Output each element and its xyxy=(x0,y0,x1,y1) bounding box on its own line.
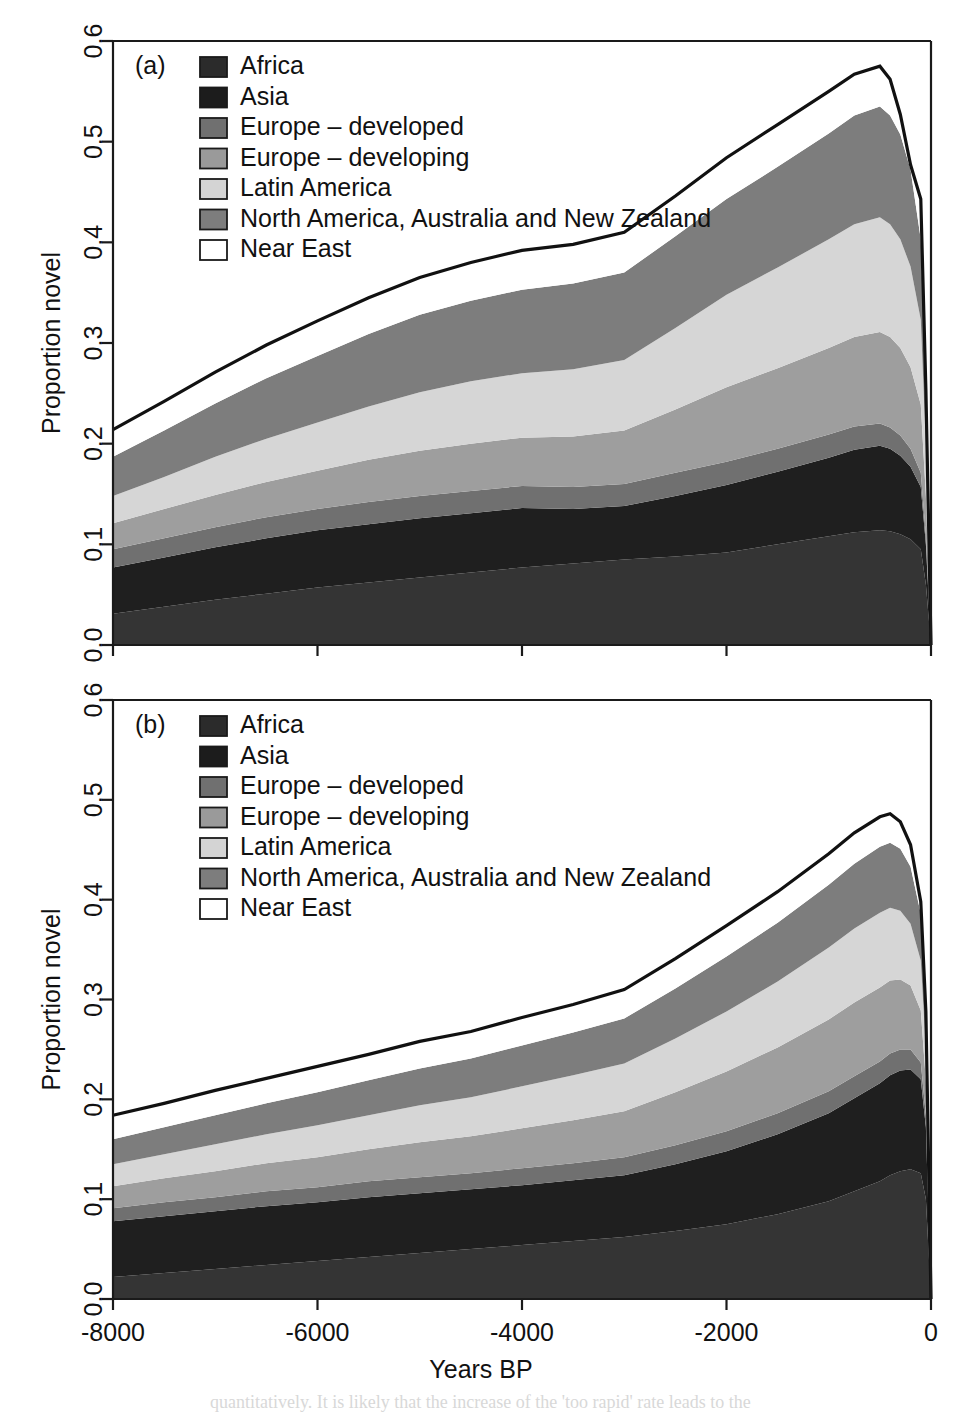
y-tick-label: 0.5 xyxy=(79,782,107,817)
y-tick-label: 0.6 xyxy=(79,24,107,59)
legend-swatch-north-america-australia-and-new-zealand xyxy=(200,869,227,889)
y-tick-label: 0.3 xyxy=(79,326,107,361)
y-tick-label: 0.6 xyxy=(79,683,107,718)
y-tick-label: 0.1 xyxy=(79,527,107,562)
legend-swatch-europe-developed xyxy=(200,777,227,797)
legend-label-latin-america: Latin America xyxy=(240,832,392,860)
legend-swatch-europe-developing xyxy=(200,808,227,828)
x-tick-label: -4000 xyxy=(490,1318,554,1346)
y-tick-label: 0.0 xyxy=(79,628,107,663)
legend-swatch-latin-america xyxy=(200,838,227,858)
legend-label-near-east: Near East xyxy=(240,893,351,921)
figure-stacked-area-panels: 0.00.10.20.30.40.50.6Proportion novel(a)… xyxy=(0,0,962,1419)
legend-swatch-asia xyxy=(200,747,227,767)
legend-label-europe-developing: Europe – developing xyxy=(240,143,469,171)
y-tick-label: 0.1 xyxy=(79,1182,107,1217)
legend-swatch-near-east xyxy=(200,240,227,260)
legend-label-africa: Africa xyxy=(240,710,304,738)
legend-swatch-europe-developing xyxy=(200,149,227,169)
legend-label-latin-america: Latin America xyxy=(240,173,392,201)
legend-label-asia: Asia xyxy=(240,741,289,769)
panel-letter-label: (b) xyxy=(135,710,166,738)
x-tick-label: 0 xyxy=(924,1318,938,1346)
y-tick-label: 0.3 xyxy=(79,982,107,1017)
x-tick-label: -2000 xyxy=(695,1318,759,1346)
x-tick-label: -8000 xyxy=(81,1318,145,1346)
x-axis-title-group: Years BP xyxy=(429,1355,532,1383)
legend-swatch-asia xyxy=(200,88,227,108)
legend-swatch-near-east xyxy=(200,899,227,919)
y-tick-label: 0.2 xyxy=(79,426,107,461)
legend-swatch-latin-america xyxy=(200,179,227,199)
legend-swatch-europe-developed xyxy=(200,118,227,138)
chart-canvas: 0.00.10.20.30.40.50.6Proportion novel(a)… xyxy=(0,0,962,1419)
x-axis-title: Years BP xyxy=(429,1355,532,1383)
legend-label-europe-developed: Europe – developed xyxy=(240,112,464,140)
legend-label-near-east: Near East xyxy=(240,234,351,262)
y-axis-title: Proportion novel xyxy=(37,908,65,1090)
legend-swatch-africa xyxy=(200,57,227,77)
y-tick-label: 0.2 xyxy=(79,1082,107,1117)
legend-label-north-america-australia-and-new-zealand: North America, Australia and New Zealand xyxy=(240,204,711,232)
legend-label-europe-developed: Europe – developed xyxy=(240,771,464,799)
legend-label-africa: Africa xyxy=(240,51,304,79)
legend-swatch-north-america-australia-and-new-zealand xyxy=(200,210,227,230)
y-tick-label: 0.5 xyxy=(79,124,107,159)
y-axis-title: Proportion novel xyxy=(37,252,65,434)
panel-letter-label: (a) xyxy=(135,51,166,79)
x-tick-label: -6000 xyxy=(286,1318,350,1346)
legend-label-europe-developing: Europe – developing xyxy=(240,802,469,830)
legend-label-north-america-australia-and-new-zealand: North America, Australia and New Zealand xyxy=(240,863,711,891)
y-tick-label: 0.4 xyxy=(79,225,107,260)
legend-swatch-africa xyxy=(200,716,227,736)
legend-label-asia: Asia xyxy=(240,82,289,110)
y-tick-label: 0.4 xyxy=(79,882,107,917)
y-tick-label: 0.0 xyxy=(79,1282,107,1317)
